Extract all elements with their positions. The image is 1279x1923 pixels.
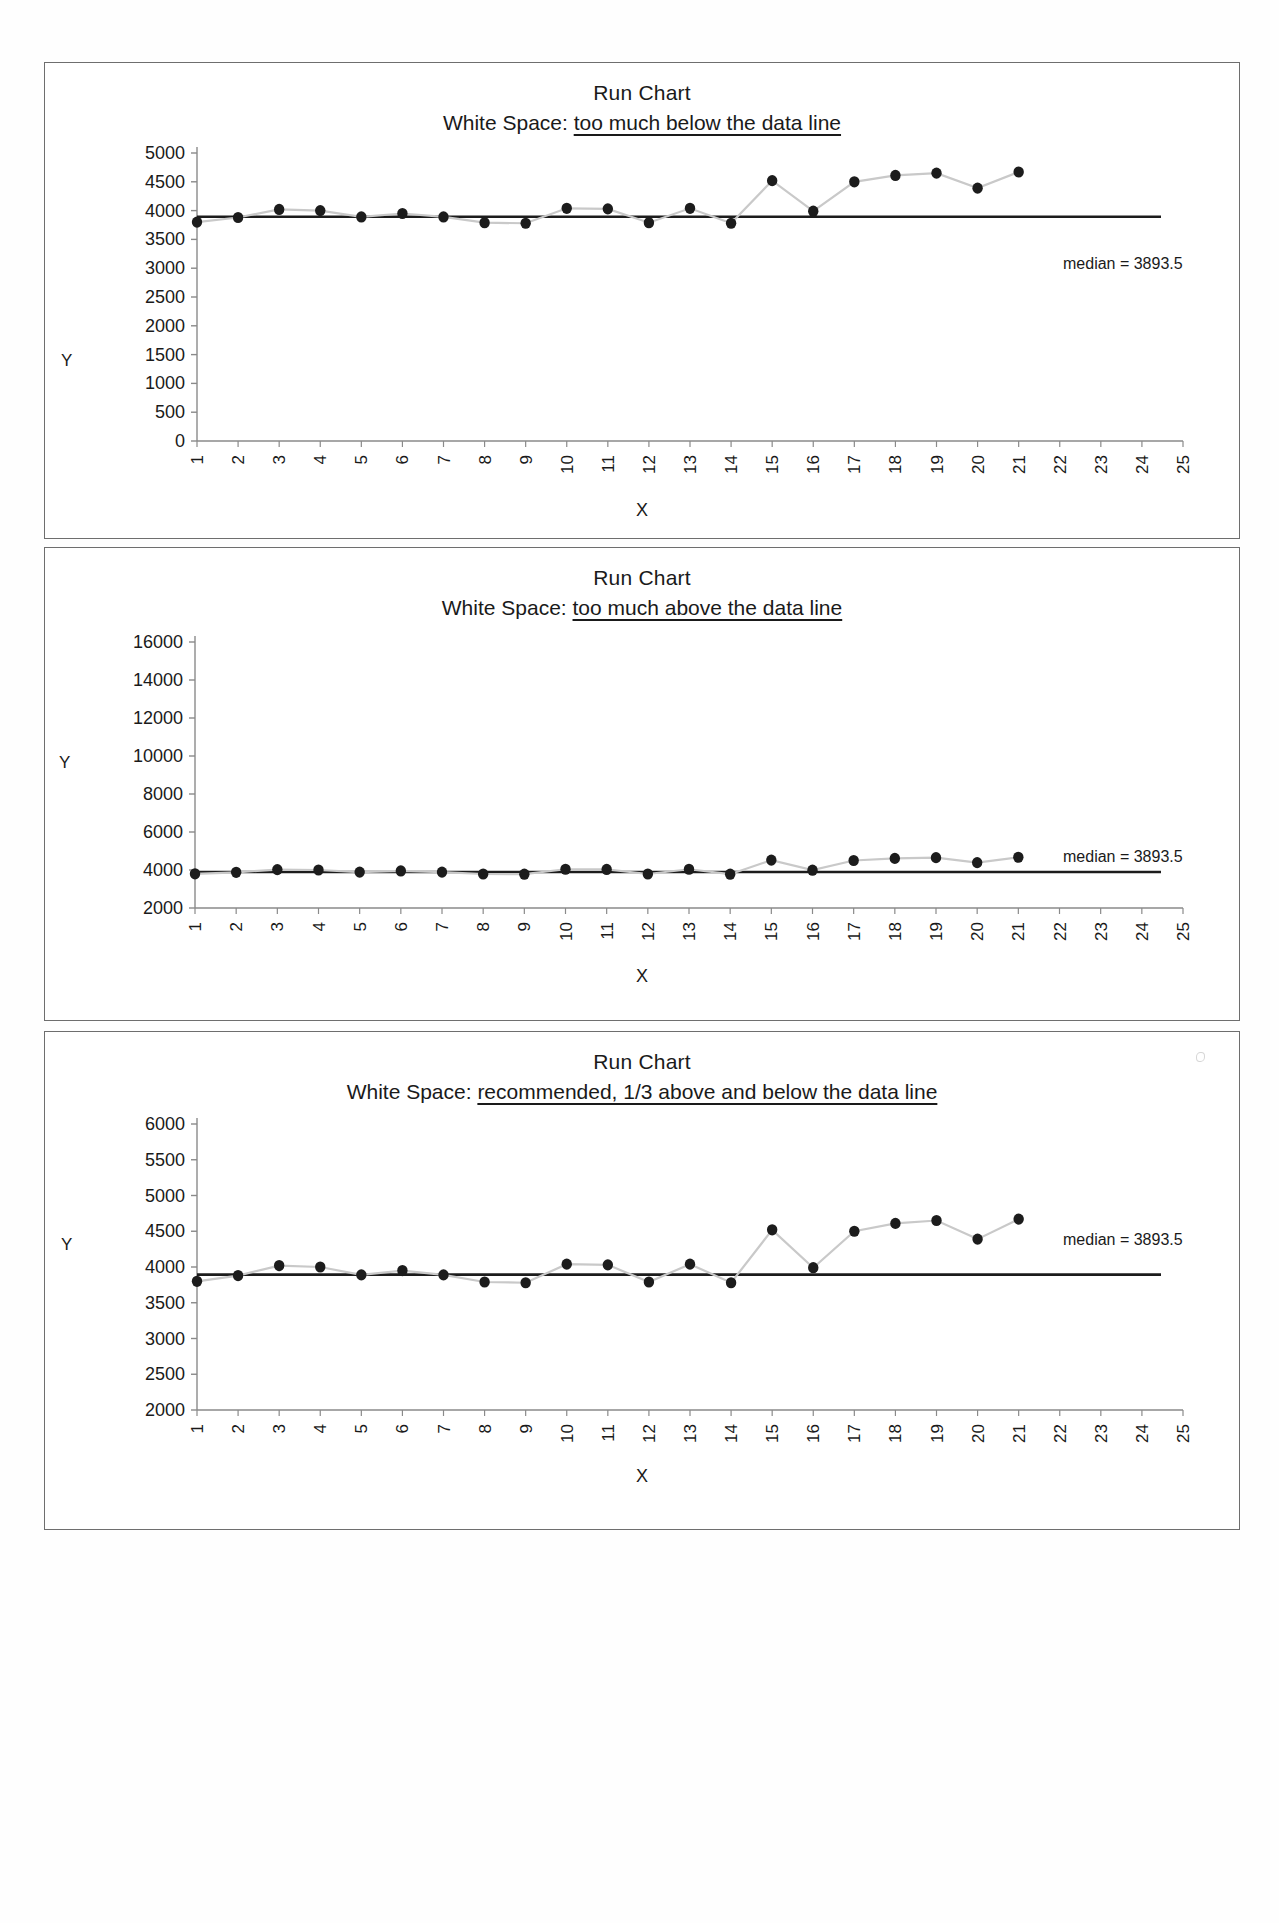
x-tick-label: 10 <box>558 1424 577 1443</box>
data-point-marker <box>808 1262 818 1273</box>
data-point-marker <box>562 1259 572 1270</box>
data-point-marker <box>808 206 818 217</box>
x-tick-label: 1 <box>188 1424 207 1433</box>
data-point-marker <box>438 211 448 222</box>
x-tick-label: 16 <box>804 922 823 941</box>
x-tick-label: 10 <box>557 922 576 941</box>
x-tick-label: 16 <box>804 455 823 474</box>
x-tick-label: 21 <box>1010 1424 1029 1443</box>
x-tick-label: 7 <box>433 922 452 931</box>
scan-artifact-speck <box>1196 1052 1205 1062</box>
x-tick-label: 5 <box>352 455 371 464</box>
y-tick-label: 4000 <box>145 201 185 221</box>
y-tick-label: 2500 <box>145 287 185 307</box>
data-point-marker <box>520 1277 530 1288</box>
data-point-marker <box>231 867 241 878</box>
data-point-marker <box>479 217 489 228</box>
x-tick-label: 3 <box>268 922 287 931</box>
data-point-marker <box>767 175 777 186</box>
y-tick-label: 2500 <box>145 1364 185 1384</box>
x-tick-label: 8 <box>476 455 495 464</box>
x-tick-label: 5 <box>351 922 370 931</box>
data-point-marker <box>478 868 488 879</box>
y-tick-label: 16000 <box>133 632 183 652</box>
data-point-marker <box>520 218 530 229</box>
y-tick-label: 0 <box>175 431 185 451</box>
data-point-marker <box>767 1224 777 1235</box>
data-point-marker <box>1013 852 1023 863</box>
data-point-marker <box>890 853 900 864</box>
y-tick-label: 14000 <box>133 670 183 690</box>
data-point-marker <box>726 218 736 229</box>
data-point-marker <box>396 865 406 876</box>
data-point-marker <box>438 1269 448 1280</box>
data-point-marker <box>274 1260 284 1271</box>
data-point-marker <box>725 869 735 880</box>
x-tick-label: 13 <box>681 1424 700 1443</box>
chart-panel-3: Run Chart White Space: recommended, 1/3 … <box>44 1031 1240 1530</box>
data-point-marker <box>931 1215 941 1226</box>
chart-3-svg: 6000550050004500400035003000250020001234… <box>45 1032 1239 1529</box>
x-tick-label: 3 <box>270 1424 289 1433</box>
x-tick-label: 20 <box>968 922 987 941</box>
data-point-marker <box>190 868 200 879</box>
x-tick-label: 7 <box>435 455 454 464</box>
chart-2-plot: 1600014000120001000080006000400020001234… <box>45 548 1239 1020</box>
x-tick-label: 8 <box>476 1424 495 1433</box>
data-point-marker <box>603 1259 613 1270</box>
x-tick-label: 8 <box>474 922 493 931</box>
data-point-marker <box>315 205 325 216</box>
x-tick-label: 11 <box>599 455 618 473</box>
x-tick-label: 12 <box>639 922 658 941</box>
x-tick-label: 23 <box>1092 922 1111 941</box>
chart-3-plot: 6000550050004500400035003000250020001234… <box>45 1032 1239 1529</box>
x-tick-label: 13 <box>681 455 700 474</box>
data-point-marker <box>685 1259 695 1270</box>
x-tick-label: 21 <box>1009 922 1028 941</box>
x-tick-label: 6 <box>393 1424 412 1433</box>
data-point-marker <box>643 868 653 879</box>
x-tick-label: 9 <box>515 922 534 931</box>
x-tick-label: 10 <box>558 455 577 474</box>
chart-2-svg: 1600014000120001000080006000400020001234… <box>45 548 1239 1020</box>
x-tick-label: 11 <box>599 1424 618 1442</box>
data-point-marker <box>601 864 611 875</box>
x-tick-label: 7 <box>435 1424 454 1433</box>
data-point-marker <box>726 1277 736 1288</box>
data-point-marker <box>272 864 282 875</box>
data-point-marker <box>233 212 243 223</box>
data-point-marker <box>931 852 941 863</box>
data-point-marker <box>437 866 447 877</box>
chart-panel-2: Run Chart White Space: too much above th… <box>44 547 1240 1021</box>
y-tick-label: 4500 <box>145 172 185 192</box>
x-tick-label: 2 <box>229 455 248 464</box>
x-tick-label: 5 <box>352 1424 371 1433</box>
x-tick-label: 1 <box>188 455 207 464</box>
chart-1-plot: 5000450040003500300025002000150010005000… <box>45 63 1239 538</box>
x-tick-label: 14 <box>722 455 741 474</box>
y-tick-label: 3500 <box>145 1293 185 1313</box>
data-point-marker <box>890 170 900 181</box>
x-tick-label: 16 <box>804 1424 823 1443</box>
data-point-marker <box>479 1276 489 1287</box>
y-tick-label: 6000 <box>143 822 183 842</box>
data-point-marker <box>685 203 695 214</box>
x-tick-label: 15 <box>762 922 781 941</box>
y-tick-label: 4500 <box>145 1221 185 1241</box>
chart-1-svg: 5000450040003500300025002000150010005000… <box>45 63 1239 538</box>
data-point-marker <box>972 1234 982 1245</box>
x-tick-label: 25 <box>1174 455 1193 474</box>
y-tick-label: 5500 <box>145 1150 185 1170</box>
chart-panel-1: Run Chart White Space: too much below th… <box>44 62 1240 539</box>
y-tick-label: 3500 <box>145 229 185 249</box>
data-point-marker <box>644 1276 654 1287</box>
data-point-marker <box>192 1276 202 1287</box>
data-point-marker <box>931 168 941 179</box>
y-tick-label: 8000 <box>143 784 183 804</box>
data-point-marker <box>397 1265 407 1276</box>
y-tick-label: 6000 <box>145 1114 185 1134</box>
y-tick-label: 4000 <box>143 860 183 880</box>
x-tick-label: 14 <box>722 1424 741 1443</box>
x-tick-label: 25 <box>1174 1424 1193 1443</box>
x-tick-label: 6 <box>393 455 412 464</box>
